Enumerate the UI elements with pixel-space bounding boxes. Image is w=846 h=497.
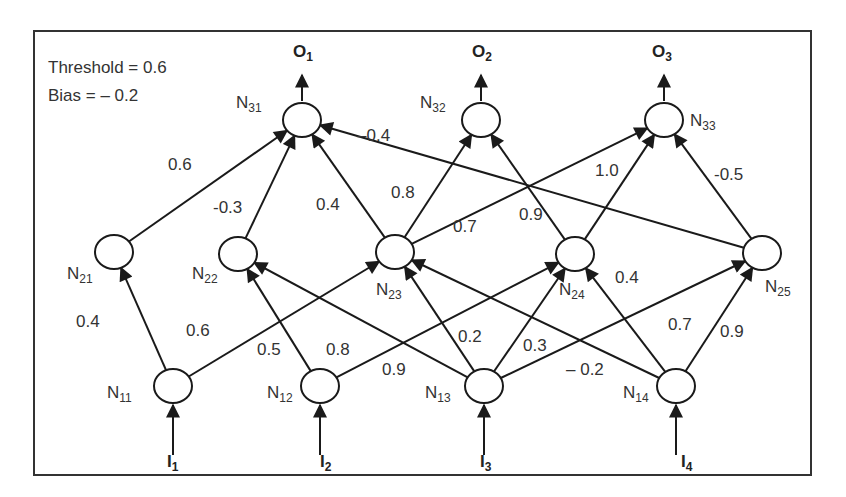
input-label-2: I2 <box>320 452 332 474</box>
neuron-n14 <box>657 369 695 403</box>
node-label-n24: N24 <box>559 280 585 302</box>
edge-n24-n33 <box>585 135 655 240</box>
edge-n21-n31 <box>129 130 287 241</box>
nodes-group <box>95 103 781 403</box>
weight-label: – 0.2 <box>566 360 604 379</box>
edge-n25-n33 <box>674 134 751 239</box>
node-label-n13: N13 <box>425 383 451 405</box>
node-label-n31: N31 <box>236 93 262 115</box>
bias-label: Bias = – 0.2 <box>48 86 138 105</box>
weight-label: 0.7 <box>668 315 692 334</box>
node-label-n32: N32 <box>420 93 446 115</box>
neuron-n22 <box>219 237 257 271</box>
weight-label: 0.2 <box>458 327 482 346</box>
edge-n22-n31 <box>245 136 294 239</box>
weight-label: 0.4 <box>76 312 100 331</box>
neuron-n12 <box>301 369 339 403</box>
weight-label: –0.4 <box>357 126 390 145</box>
node-label-n21: N21 <box>67 264 93 286</box>
input-label-4: I4 <box>681 452 693 474</box>
edge-n13-n24 <box>494 268 565 371</box>
node-label-n12: N12 <box>267 383 293 405</box>
edge-n13-n22 <box>254 263 467 378</box>
neuron-n31 <box>283 103 321 137</box>
weight-label: 0.8 <box>326 340 350 359</box>
weight-label: 0.7 <box>453 217 477 236</box>
edge-n12-n24 <box>336 263 558 378</box>
input-label-3: I3 <box>480 452 492 474</box>
node-label-n14: N14 <box>623 383 649 405</box>
node-label-n11: N11 <box>107 383 132 405</box>
neuron-n23 <box>376 235 414 269</box>
neuron-n11 <box>154 369 192 403</box>
weight-label: -0.3 <box>213 198 242 217</box>
weight-label: 0.4 <box>316 195 340 214</box>
edge-n11-n21 <box>121 268 166 370</box>
edge-n23-n31 <box>312 134 385 237</box>
edges-group <box>121 125 753 378</box>
neuron-n33 <box>645 103 683 137</box>
node-label-n23: N23 <box>376 280 402 302</box>
neuron-n24 <box>556 237 594 271</box>
weight-label: 0.6 <box>186 321 210 340</box>
weight-label: 0.9 <box>382 360 406 379</box>
weight-label: 0.9 <box>519 205 543 224</box>
neuron-n32 <box>462 103 500 137</box>
weight-label: 0.9 <box>720 322 744 341</box>
labels-group: 0.40.60.50.80.90.20.30.7– 0.20.40.90.6-0… <box>67 42 791 474</box>
output-label-2: O2 <box>472 42 492 64</box>
neuron-n13 <box>465 369 503 403</box>
output-label-1: O1 <box>293 42 313 64</box>
threshold-label: Threshold = 0.6 <box>48 58 167 77</box>
weight-label: -0.5 <box>714 165 743 184</box>
neural-network-diagram: Threshold = 0.6 Bias = – 0.2 0.40.60.50.… <box>0 0 846 497</box>
neuron-n25 <box>743 236 781 270</box>
output-label-3: O3 <box>652 42 672 64</box>
weight-label: 0.6 <box>168 155 192 174</box>
node-label-n33: N33 <box>690 111 716 133</box>
edge-n14-n25 <box>686 268 753 372</box>
edge-n13-n23 <box>405 267 475 372</box>
node-label-n22: N22 <box>192 264 218 286</box>
weight-label: 1.0 <box>595 161 619 180</box>
weight-label: 0.4 <box>615 268 639 287</box>
node-label-n25: N25 <box>765 277 791 299</box>
input-label-1: I1 <box>167 452 179 474</box>
weight-label: 0.5 <box>257 340 281 359</box>
weight-label: 0.8 <box>391 183 415 202</box>
neuron-n21 <box>95 235 133 269</box>
weight-label: 0.3 <box>523 336 547 355</box>
